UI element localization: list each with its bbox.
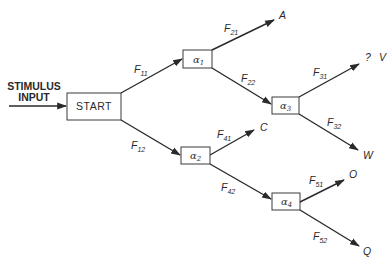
node-alpha-4: α4 [272,193,300,210]
start-label: START [76,100,112,112]
edge-f31 [299,64,359,97]
output-o: O [349,168,357,180]
start-node: START [67,93,121,120]
edge-label-f31: F31 [313,66,327,80]
edge-f21 [212,20,274,50]
output-w: W [363,149,374,161]
node-alpha-2: α2 [181,147,210,164]
stimulus-input-label: STIMULUS INPUT [7,80,61,103]
edge-f42 [210,164,271,199]
edge-f12 [121,120,180,155]
decision-tree-diagram: STIMULUS INPUT START F11 F12 α1 F21 F22 … [0,0,391,261]
edge-label-f12: F12 [131,139,145,153]
edge-label-f41: F41 [217,128,231,142]
output-v: V [379,51,387,63]
edge-label-f42: F42 [221,181,235,195]
edge-label-f32: F32 [327,116,341,130]
edge-label-f52: F52 [313,230,327,244]
stimulus-label-line2: INPUT [18,91,50,103]
edge-f52 [300,210,359,246]
output-v-question: ? [365,51,371,63]
edge-label-f22: F22 [241,72,255,86]
edge-label-f51: F51 [309,174,323,188]
edge-label-f11: F11 [134,63,148,77]
output-a: A [278,9,286,21]
node-alpha-1: α1 [183,50,212,68]
edge-label-f21: F21 [224,22,238,36]
node-alpha-3: α3 [272,97,299,114]
output-c: C [260,121,268,133]
edge-f11 [121,59,182,93]
output-q: Q [363,245,371,257]
